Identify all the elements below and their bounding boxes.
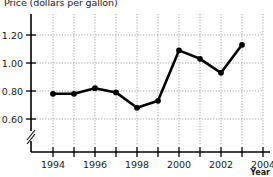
x-axis-title: Year	[250, 168, 270, 177]
line-chart: Price (dollars per gallon)	[0, 0, 273, 177]
xtick-label-1994: 1994	[41, 159, 65, 170]
data-point-1995	[71, 91, 77, 97]
xtick-label-1998: 1998	[125, 159, 149, 170]
data-point-2001	[197, 56, 203, 62]
data-point-2003	[239, 42, 245, 48]
ytick-label-1-20: 1.20	[2, 30, 23, 41]
data-point-markers	[50, 42, 245, 111]
data-point-1999	[155, 98, 161, 104]
ytick-label-0-60: 0.60	[2, 114, 23, 125]
xtick-label-2000: 2000	[167, 159, 191, 170]
chart-plot-area: 1.20 1.00 0.80 0.60 1994 1996 1998 2000 …	[0, 0, 273, 177]
ytick-label-0-80: 0.80	[2, 86, 23, 97]
data-point-2000	[176, 48, 182, 54]
data-point-1998	[134, 105, 140, 111]
xtick-label-1996: 1996	[83, 159, 107, 170]
horizontal-gridlines	[31, 35, 262, 119]
vertical-gridlines	[53, 14, 263, 145]
data-point-1997	[113, 90, 119, 96]
ytick-label-1-00: 1.00	[2, 58, 23, 69]
data-line-price	[53, 45, 242, 108]
data-point-2002	[218, 70, 224, 76]
xtick-label-2002: 2002	[209, 159, 233, 170]
data-point-1994	[50, 91, 56, 97]
data-point-1996	[92, 85, 98, 91]
